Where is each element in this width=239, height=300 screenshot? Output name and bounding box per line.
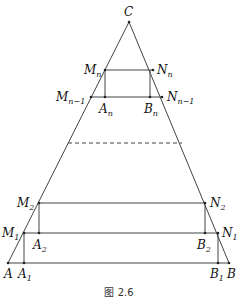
label-a1: A1: [17, 267, 32, 283]
label-b: B: [226, 267, 236, 281]
label-nn-1: Nn−1: [166, 90, 194, 106]
label-a2: A2: [32, 238, 47, 254]
label-an: An: [98, 102, 113, 118]
label-c: C: [124, 5, 133, 19]
triangle-rectangles-diagram: C Mn Nn Mn−1 Nn−1 An Bn M2 N2 M1 N1 A2 B…: [0, 0, 239, 300]
label-b2: B2: [196, 238, 211, 254]
label-n2: N2: [209, 196, 226, 212]
label-bn: Bn: [143, 102, 158, 118]
side-cb: [129, 22, 229, 263]
label-m1: M1: [1, 226, 19, 242]
label-n1: N1: [221, 226, 238, 242]
figure-caption: 图 2.6: [104, 287, 133, 298]
label-nn: Nn: [156, 63, 173, 79]
label-mn-1: Mn−1: [55, 90, 85, 106]
label-a: A: [3, 267, 13, 281]
label-m2: M2: [16, 196, 34, 212]
label-b1: B1: [209, 267, 224, 283]
label-mn: Mn: [83, 63, 101, 79]
